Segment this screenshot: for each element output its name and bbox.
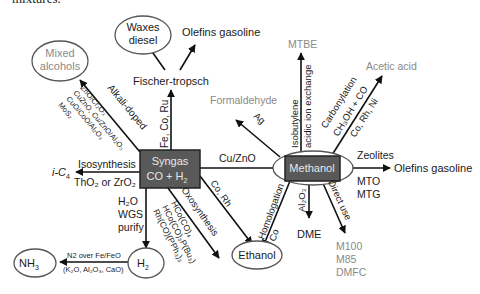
node-fischer-tropsch: Fischer-tropsch <box>133 75 209 87</box>
node-waxes-diesel: Waxes diesel <box>115 16 171 54</box>
node-olefins-gasoline-right: Olefins gasoline <box>394 162 472 174</box>
svg-text:Mixed: Mixed <box>45 47 74 59</box>
node-i-c4: i-C4 <box>52 166 70 180</box>
node-acetic-acid: Acetic acid <box>366 60 417 72</box>
label-ag: Ag <box>252 110 268 126</box>
node-ethanol: Ethanol <box>232 241 282 269</box>
label-n2-over-fe: N2 over Fe/FeO <box>67 251 121 260</box>
label-purify: purify <box>118 221 144 233</box>
node-dme: DME <box>297 228 321 240</box>
node-olefins-gasoline-top: Olefins gasoline <box>182 26 260 38</box>
svg-text:Ethanol: Ethanol <box>238 249 275 261</box>
label-promoters: (K₂O, Al₂O₃, CaO) <box>63 265 124 274</box>
label-acidic-ion-exchange: acidic ion exchange <box>302 65 313 148</box>
label-zeolites: Zeolites <box>357 149 394 161</box>
node-h2: H2 <box>128 248 164 278</box>
label-mto: MTO <box>357 175 380 187</box>
label-wgs: WGS <box>118 208 143 220</box>
label-cu-zno: Cu/ZnO <box>219 152 256 164</box>
node-nh3: NH3 <box>14 249 56 277</box>
label-mtg: MTG <box>357 188 380 200</box>
caption-fragment: mixtures. <box>12 0 61 6</box>
label-al2o3: Al₂O₃ <box>296 188 307 212</box>
label-h2o: H₂O <box>118 195 138 207</box>
svg-text:alcohols: alcohols <box>40 60 81 72</box>
syngas-conversion-diagram: mixtures. Waxes diesel Olefins gasoline … <box>0 0 480 294</box>
svg-text:diesel: diesel <box>129 34 158 46</box>
node-mixed-alcohols: Mixed alcohols <box>32 41 88 81</box>
svg-text:CO + H2: CO + H2 <box>147 170 188 184</box>
svg-text:M100: M100 <box>336 240 362 252</box>
svg-text:DMFC: DMFC <box>336 266 367 278</box>
svg-text:Waxes: Waxes <box>126 21 160 33</box>
label-isobutylene: Isobutylene <box>289 99 300 148</box>
node-formaldehyde: Formaldehyde <box>210 94 277 106</box>
node-methanol: Methanol <box>273 151 353 185</box>
svg-text:Syngas: Syngas <box>152 155 189 167</box>
edge-syngas-ethanol <box>200 176 252 244</box>
label-isosynthesis: Isosynthesis <box>78 158 136 170</box>
label-fe-co-ru: Fe, Co, Ru <box>159 100 170 148</box>
edge-fischer-olefins <box>180 45 195 70</box>
svg-text:Methanol: Methanol <box>289 162 334 174</box>
node-direct-products: M100 M85 DMFC <box>336 240 367 278</box>
node-syngas: Syngas CO + H2 <box>140 150 200 188</box>
label-tho2-zro2: ThO₂ or ZrO₂ <box>74 176 136 188</box>
label-alkali-doped: Alkali-doped <box>105 82 149 131</box>
svg-text:M85: M85 <box>336 253 357 265</box>
node-mtbe: MTBE <box>288 38 317 50</box>
